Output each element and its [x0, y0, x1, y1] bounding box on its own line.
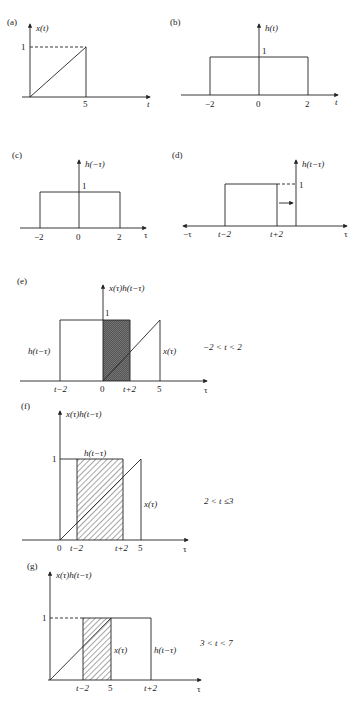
x-signal-label: x(τ)	[113, 645, 127, 655]
x-signal-label: x(τ)	[143, 499, 157, 509]
panel-d-label: (d)	[172, 150, 183, 160]
panel-a: (a) x(t) t 1 5	[7, 17, 150, 109]
y-tick-1: 1	[52, 454, 57, 464]
x-tick-0: 0	[76, 232, 81, 242]
x-axis-label: τ	[183, 544, 187, 554]
panel-d: (d) h(t−τ) τ −τ 1 t−2 t+2	[172, 150, 348, 239]
y-tick-1: 1	[105, 308, 110, 318]
x-signal-label: x(τ)	[162, 346, 176, 356]
condition-label: −2 < t < 2	[203, 342, 242, 352]
x-axis-label: τ	[144, 230, 148, 240]
rect-pulse-h-shifted	[225, 184, 277, 226]
y-axis-label: x(τ)h(t−τ)	[65, 409, 102, 419]
panel-e-label: (e)	[17, 276, 27, 286]
panel-c: (c) h(−τ) τ 1 −2 0 2	[12, 150, 148, 242]
x-axis-neg-label: −τ	[183, 229, 192, 239]
panel-a-label: (a)	[7, 17, 17, 27]
h-signal-label: h(t−τ)	[28, 346, 50, 356]
x-tick-t-minus-2: t−2	[218, 229, 232, 239]
x-tick-5: 5	[138, 543, 143, 553]
y-tick-1: 1	[262, 46, 267, 56]
panel-c-label: (c)	[12, 150, 22, 160]
y-tick-1: 1	[21, 42, 26, 52]
x-tick-5: 5	[83, 99, 88, 109]
condition-label: 3 < t < 7	[199, 638, 233, 648]
condition-label: 2 < t ≤3	[204, 496, 234, 506]
panel-b-label: (b)	[170, 17, 181, 27]
h-signal-label: h(t−τ)	[154, 645, 176, 655]
y-tick-1: 1	[82, 181, 87, 191]
x-tick-0: 0	[57, 543, 62, 553]
overlap-hatched-region	[83, 618, 111, 680]
x-tick-2: 2	[305, 99, 310, 109]
ramp-signal-x	[30, 47, 86, 97]
x-tick-5: 5	[157, 384, 162, 394]
y-axis-label: h(−τ)	[85, 159, 105, 169]
x-tick-0: 0	[256, 99, 261, 109]
x-tick-t-minus-2: t−2	[54, 384, 68, 394]
x-tick-t-plus-2: t+2	[115, 543, 129, 553]
x-tick-t-plus-2: t+2	[270, 229, 284, 239]
y-axis-label: x(τ)h(t−τ)	[108, 283, 145, 293]
y-axis-label: x(t)	[35, 23, 49, 33]
overlap-shaded-region	[103, 320, 130, 381]
x-axis-label: τ	[197, 684, 201, 694]
y-axis-label: h(t−τ)	[302, 159, 324, 169]
x-tick-neg2: −2	[205, 99, 215, 109]
convolution-figure: (a) x(t) t 1 5 (b) h(t) t 1 −2 0 2 (c) h…	[0, 0, 354, 703]
y-axis-label: h(t)	[265, 23, 278, 33]
y-axis-label: x(τ)h(t−τ)	[55, 570, 92, 580]
x-tick-neg2: −2	[34, 232, 44, 242]
x-axis-label: τ	[204, 385, 208, 395]
x-axis-label: τ	[344, 229, 348, 239]
x-axis-label: t	[147, 99, 150, 109]
rect-pulse-h-reversed	[40, 192, 120, 228]
y-tick-1: 1	[299, 180, 304, 190]
x-tick-2: 2	[117, 232, 122, 242]
panel-e: (e) x(τ)h(t−τ) τ 1 h(t−τ) x(τ) t−2 0 t+2…	[17, 276, 242, 395]
x-tick-0: 0	[100, 384, 105, 394]
x-tick-t-plus-2: t+2	[144, 683, 158, 693]
x-tick-t-minus-2: t−2	[70, 543, 84, 553]
x-tick-t-plus-2: t+2	[123, 384, 137, 394]
panel-g: (g) x(τ)h(t−τ) τ 1 x(τ) h(t−τ) t−2 5 t+2…	[27, 561, 233, 694]
x-tick-5: 5	[108, 683, 113, 693]
x-axis-label: t	[335, 97, 338, 107]
h-signal-label: h(t−τ)	[84, 448, 106, 458]
panel-b: (b) h(t) t 1 −2 0 2	[170, 17, 338, 109]
y-tick-1: 1	[42, 613, 47, 623]
panel-f: (f) x(τ)h(t−τ) τ 1 h(t−τ) x(τ) 0 t−2 t+2…	[21, 401, 234, 554]
panel-g-label: (g)	[27, 561, 38, 571]
panel-f-label: (f)	[21, 401, 30, 411]
x-tick-t-minus-2: t−2	[76, 683, 90, 693]
